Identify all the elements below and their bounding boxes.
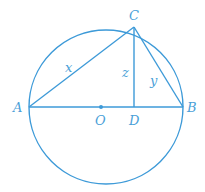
label-d: D	[128, 113, 140, 128]
label-z: z	[121, 65, 129, 80]
geometry-diagram: C A B O D x z y	[0, 0, 205, 192]
label-c: C	[129, 8, 139, 23]
center-point-o	[99, 105, 103, 109]
diagram-canvas: C A B O D x z y	[0, 0, 205, 192]
segment-ac	[29, 27, 134, 107]
label-b: B	[186, 100, 197, 115]
label-o: O	[95, 113, 106, 128]
segment-cb	[134, 27, 183, 107]
label-a: A	[12, 100, 22, 115]
label-y: y	[149, 73, 158, 88]
label-x: x	[65, 60, 73, 75]
